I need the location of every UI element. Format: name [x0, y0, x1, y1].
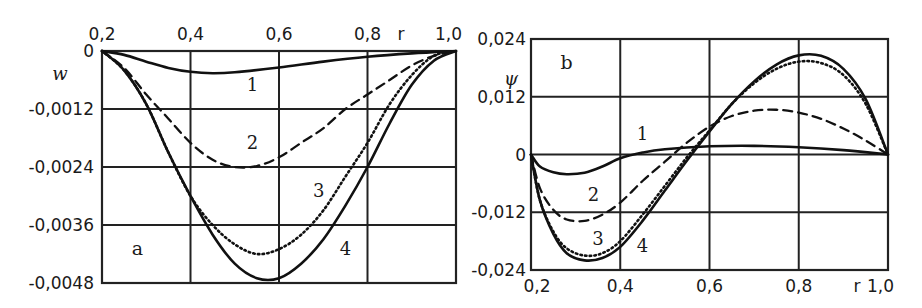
y-tick-label: -0,0024: [28, 157, 94, 177]
x-tick-label: 0,6: [265, 24, 292, 44]
chart-panel-a: 0,20,40,60,81,00-0,0012-0,0024-0,0036-0,…: [28, 24, 462, 293]
chart-panel-b: 0,20,40,60,81,00,0240,0120-0,012-0,024ψr…: [471, 29, 894, 296]
curve-number-label: 3: [592, 228, 603, 249]
curve-number-label: 3: [313, 180, 324, 201]
y-axis-label: ψ: [504, 68, 519, 89]
curve-number-label: 2: [247, 132, 258, 153]
x-axis-label: r: [854, 276, 861, 296]
x-tick-label: 0,4: [607, 276, 634, 296]
curve-number-label: 1: [247, 74, 258, 95]
y-tick-label: -0,0012: [28, 99, 94, 119]
x-tick-label: 0,4: [177, 24, 204, 44]
curve-number-label: 2: [588, 184, 599, 205]
y-axis-label: w: [52, 63, 68, 84]
y-tick-label: -0,012: [471, 202, 526, 222]
y-tick-label: 0,012: [477, 87, 526, 107]
y-tick-label: 0: [515, 145, 526, 165]
x-tick-label: 0,8: [354, 24, 381, 44]
y-axis-ticks: 0,0240,0120-0,012-0,024: [471, 29, 526, 280]
curve-number-label: 1: [637, 123, 648, 144]
curve-number-label: 4: [340, 238, 351, 259]
x-tick-label: 0,6: [696, 276, 723, 296]
x-tick-label: 0,2: [523, 276, 550, 296]
y-tick-label: -0,0048: [28, 273, 94, 293]
x-axis-ticks: 0,20,40,60,81,0: [523, 276, 894, 296]
x-tick-label: 1,0: [867, 276, 894, 296]
x-tick-label: 0,8: [785, 276, 812, 296]
gridlines: [531, 39, 888, 270]
x-tick-label: 1,0: [435, 24, 462, 44]
x-axis-label: r: [398, 24, 405, 44]
y-tick-label: -0,024: [471, 260, 526, 280]
panel-label: b: [561, 51, 573, 73]
y-tick-label: 0: [83, 41, 94, 61]
chart-canvas: 0,20,40,60,81,00-0,0012-0,0024-0,0036-0,…: [0, 0, 922, 308]
x-axis-ticks: 0,20,40,60,81,0: [88, 24, 462, 44]
y-tick-label: -0,0036: [28, 215, 94, 235]
curve-number-label: 4: [637, 235, 648, 256]
y-tick-label: 0,024: [477, 29, 526, 49]
panel-label: a: [132, 237, 143, 259]
